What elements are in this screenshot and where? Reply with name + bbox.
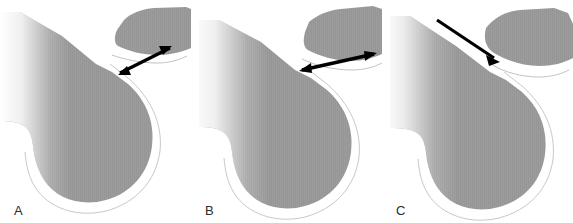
panel-label-c: C xyxy=(396,204,406,217)
panel-b: B xyxy=(191,0,382,223)
panel-a: A xyxy=(0,0,191,223)
figure-container: A xyxy=(0,0,573,223)
panel-label-a: A xyxy=(14,204,23,217)
panel-label-b: B xyxy=(205,204,214,217)
patella xyxy=(115,7,191,55)
panel-c: C xyxy=(382,0,573,223)
patella xyxy=(485,8,573,66)
